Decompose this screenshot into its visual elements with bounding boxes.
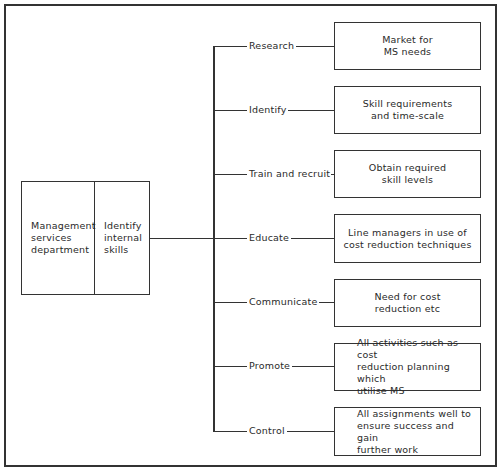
trunk-line [213,46,215,432]
branch-label-identify: Identify [247,104,288,116]
target-box-communicate: Need for cost reduction etc [334,279,481,327]
target-box-educate: Line managers in use of cost reduction t… [334,214,481,263]
branch-label-control: Control [247,425,287,437]
branch-label-research: Research [247,40,296,52]
root-skills-label: Identify internal skills [104,220,142,256]
root-skills-cell: Identify internal skills [95,182,149,294]
root-connector [150,238,213,239]
branch-label-promote: Promote [247,360,292,372]
target-box-identify: Skill requirements and time-scale [334,86,481,134]
branch-label-educate: Educate [247,232,291,244]
root-department-cell: Management services department [22,182,95,294]
target-box-research: Market for MS needs [334,22,481,70]
root-node: Management services department Identify … [21,181,150,295]
branch-label-train: Train and recruit [247,168,331,180]
target-box-promote: All activities such as cost reduction pl… [334,343,481,391]
branch-label-communicate: Communicate [247,296,319,308]
target-box-control: All assignments well to ensure success a… [334,407,481,456]
root-department-label: Management services department [31,220,96,256]
target-box-train: Obtain required skill levels [334,150,481,198]
